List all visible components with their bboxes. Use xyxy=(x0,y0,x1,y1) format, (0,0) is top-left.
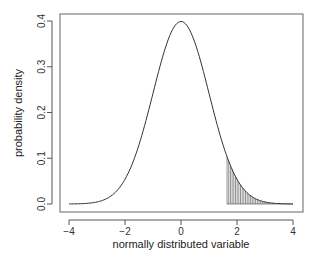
x-tick-label: 4 xyxy=(290,226,296,237)
x-axis-label: normally distributed variable xyxy=(113,238,250,250)
y-axis: 0.00.10.20.30.4 xyxy=(36,14,52,211)
density-plot: 0.00.10.20.30.4 −4−2024 normally distrib… xyxy=(0,0,317,263)
tail-hatch-region xyxy=(227,157,293,204)
y-axis-label: probability density xyxy=(12,68,24,157)
x-tick-label: 2 xyxy=(234,226,240,237)
density-curve xyxy=(69,21,293,203)
y-tick-label: 0.3 xyxy=(36,59,47,73)
plot-frame xyxy=(60,14,303,212)
y-tick-label: 0.2 xyxy=(36,105,47,119)
x-axis: −4−2024 xyxy=(63,220,296,237)
y-tick-label: 0.4 xyxy=(36,14,47,28)
x-tick-label: 0 xyxy=(178,226,184,237)
x-tick-label: −2 xyxy=(119,226,131,237)
y-tick-label: 0.0 xyxy=(36,197,47,211)
x-tick-label: −4 xyxy=(63,226,75,237)
y-tick-label: 0.1 xyxy=(36,151,47,165)
